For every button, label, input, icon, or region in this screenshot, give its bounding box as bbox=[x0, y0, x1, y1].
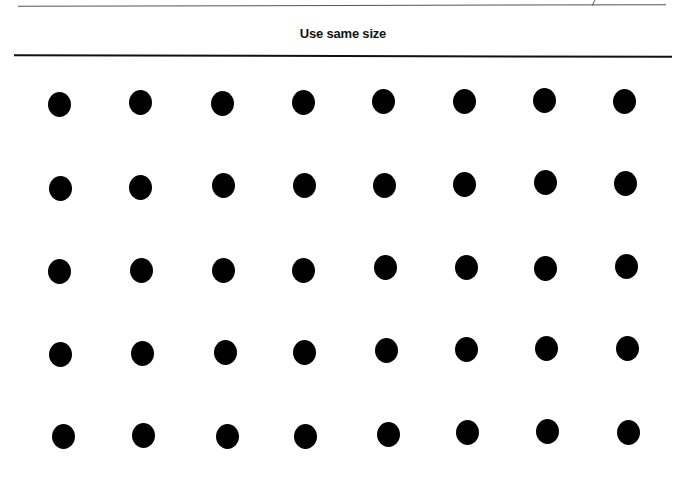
dot-r2-c6 bbox=[453, 172, 476, 197]
dot-r2-c3 bbox=[212, 173, 235, 198]
dot-r4-c6 bbox=[455, 337, 478, 362]
dot-r2-c5 bbox=[373, 173, 396, 198]
dot-r3-c4 bbox=[292, 258, 315, 283]
dot-r3-c8 bbox=[615, 254, 638, 279]
dot-r5-c7 bbox=[536, 419, 559, 444]
dot-r5-c3 bbox=[216, 424, 239, 449]
dot-r4-c1 bbox=[49, 342, 72, 367]
dot-r3-c1 bbox=[48, 259, 71, 284]
dot-r1-c1 bbox=[48, 92, 71, 117]
dot-r1-c7 bbox=[533, 88, 556, 113]
dot-r5-c5 bbox=[377, 422, 400, 447]
dot-r1-c8 bbox=[613, 89, 636, 114]
dot-r5-c8 bbox=[617, 420, 640, 445]
dot-r1-c4 bbox=[292, 90, 315, 115]
dot-r5-c4 bbox=[294, 424, 317, 449]
dot-r4-c5 bbox=[375, 338, 398, 363]
dot-r3-c5 bbox=[374, 255, 397, 280]
dot-r4-c2 bbox=[131, 341, 154, 366]
dot-r4-c3 bbox=[214, 340, 237, 365]
dot-r1-c2 bbox=[129, 90, 152, 115]
dot-r5-c6 bbox=[456, 420, 479, 445]
dot-r4-c8 bbox=[616, 336, 639, 361]
dot-r3-c6 bbox=[455, 255, 478, 280]
dot-r4-c7 bbox=[535, 336, 558, 361]
dot-r2-c4 bbox=[293, 173, 316, 198]
dot-r3-c2 bbox=[130, 258, 153, 283]
dot-r1-c5 bbox=[372, 89, 395, 114]
dot-r2-c8 bbox=[614, 171, 637, 196]
dot-r1-c3 bbox=[211, 91, 234, 116]
dot-r5-c2 bbox=[132, 423, 155, 448]
dot-r3-c3 bbox=[212, 258, 235, 283]
dot-r4-c4 bbox=[293, 340, 316, 365]
dot-r3-c7 bbox=[534, 256, 557, 281]
dot-r1-c6 bbox=[453, 89, 476, 114]
dot-r2-c7 bbox=[534, 170, 557, 195]
dot-grid bbox=[0, 0, 686, 492]
dot-r2-c2 bbox=[129, 175, 152, 200]
dot-r2-c1 bbox=[49, 176, 72, 201]
dot-r5-c1 bbox=[52, 424, 75, 449]
